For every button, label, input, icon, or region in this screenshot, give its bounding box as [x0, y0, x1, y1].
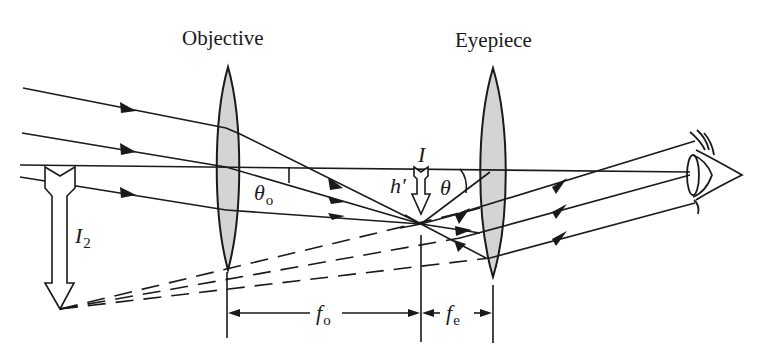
fe-symbol: f [446, 300, 452, 325]
eyepiece-lens [480, 68, 506, 277]
objective-label: Objective [182, 26, 264, 51]
final-image-arrow [45, 167, 75, 309]
theta-o-symbol: θ [254, 180, 265, 205]
eye-icon [687, 130, 742, 214]
focal-length-objective-label: fo [316, 300, 331, 329]
virtual-rays [60, 213, 490, 309]
intermediate-image-arrow [412, 167, 430, 214]
fo-symbol: f [316, 300, 322, 325]
final-image-symbol: I [75, 223, 82, 248]
fe-subscript: e [453, 312, 460, 328]
final-image-subscript: 2 [83, 235, 91, 251]
theta-o-label: θo [254, 180, 273, 209]
angle-theta-arc [460, 169, 466, 193]
objective-lens [217, 67, 240, 270]
theta-label: θ [440, 175, 451, 201]
eyepiece-label: Eyepiece [455, 28, 532, 53]
optical-axis [20, 165, 690, 172]
fo-subscript: o [323, 312, 331, 328]
image-height-label: h′ [390, 173, 406, 199]
telescope-ray-diagram [0, 0, 765, 352]
intermediate-image-label: I [418, 142, 425, 168]
incoming-ray-arrows [120, 102, 136, 198]
outgoing-ray-arrows [552, 178, 567, 246]
final-image-label: I2 [75, 223, 91, 252]
focal-length-eyepiece-label: fe [446, 300, 460, 329]
theta-o-subscript: o [266, 192, 274, 208]
